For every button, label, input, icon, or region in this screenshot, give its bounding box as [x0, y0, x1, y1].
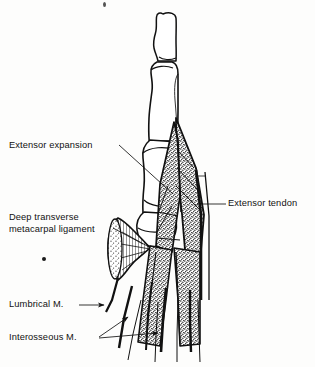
label-deep-transverse-line1: Deep transverse: [9, 212, 79, 222]
anatomy-illustration: [0, 0, 315, 367]
label-interosseous-muscle: Interosseous M.: [9, 332, 77, 344]
label-extensor-expansion: Extensor expansion: [9, 140, 92, 152]
label-lumbrical-muscle: Lumbrical M.: [9, 299, 63, 311]
bone-distal-phalanx: [154, 13, 177, 61]
scan-speck: [42, 257, 46, 261]
anatomical-figure: Extensor expansion Deep transversemetaca…: [0, 0, 315, 367]
scan-speck-top: [103, 2, 106, 7]
label-deep-transverse-metacarpal-ligament: Deep transversemetacarpal ligament: [9, 212, 95, 235]
label-deep-transverse-line2: metacarpal ligament: [9, 224, 95, 234]
label-extensor-tendon: Extensor tendon: [228, 198, 297, 210]
